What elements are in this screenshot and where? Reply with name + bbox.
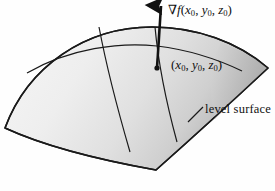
point-coordinates-label: (x0, y0, z0) [171, 58, 222, 72]
gradient-close-paren: ) [228, 2, 232, 17]
level-surface-figure: ∇f(x0, y0, z0) (x0, y0, z0) level surfac… [0, 0, 275, 191]
level-surface-caption: level surface [205, 103, 271, 116]
figure-canvas [0, 0, 275, 191]
gradient-vector-label: ∇f(x0, y0, z0) [168, 3, 232, 17]
nabla-icon: ∇ [168, 2, 177, 17]
point-dot-icon [154, 65, 159, 70]
point-close-paren: ) [218, 57, 222, 72]
level-surface-shape [5, 27, 268, 170]
